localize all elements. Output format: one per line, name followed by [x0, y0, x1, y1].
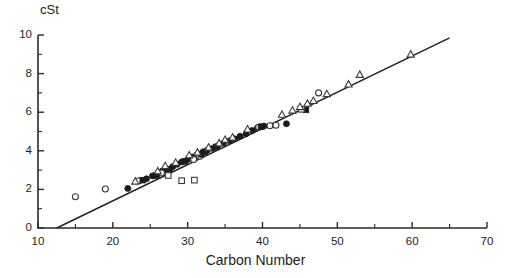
y-tick-label: 8	[6, 67, 32, 79]
data-point-open-square	[179, 178, 185, 184]
data-point-open-circle	[267, 123, 273, 129]
x-tick-label: 30	[168, 235, 208, 247]
data-point-filled-circle	[283, 121, 289, 127]
data-point-filled-circle	[125, 185, 131, 191]
data-point-open-triangle	[289, 107, 296, 113]
series-open-triangle	[132, 51, 415, 184]
data-point-filled-circle	[237, 133, 243, 139]
chart-figure: cSt Carbon Number 024681010203040506070	[0, 0, 511, 278]
x-axis-title: Carbon Number	[0, 252, 511, 268]
y-tick-label: 6	[6, 105, 32, 117]
data-point-filled-square	[140, 177, 146, 183]
data-point-open-triangle	[323, 90, 330, 96]
series-filled-circle	[125, 121, 290, 192]
y-tick-label: 0	[6, 221, 32, 233]
x-tick-label: 70	[467, 235, 507, 247]
data-point-open-triangle	[407, 51, 414, 57]
data-point-open-square	[165, 173, 171, 179]
data-point-filled-square	[258, 124, 264, 130]
data-point-open-triangle	[345, 81, 352, 87]
x-tick-label: 60	[392, 235, 432, 247]
x-tick-label: 10	[18, 235, 58, 247]
x-tick-label: 40	[243, 235, 283, 247]
y-tick-label: 4	[6, 144, 32, 156]
y-tick-label: 10	[6, 28, 32, 40]
data-point-open-square	[192, 177, 198, 183]
data-point-open-triangle	[356, 71, 363, 77]
data-point-filled-square	[182, 159, 188, 165]
y-tick-label: 2	[6, 182, 32, 194]
x-tick-label: 20	[93, 235, 133, 247]
data-point-open-circle	[72, 194, 78, 200]
data-point-open-triangle	[310, 97, 317, 103]
axis-spines	[38, 35, 487, 228]
x-tick-label: 50	[317, 235, 357, 247]
data-point-open-circle	[102, 186, 108, 192]
data-point-open-circle	[273, 122, 279, 128]
data-point-open-triangle	[278, 111, 285, 117]
data-point-open-triangle	[162, 162, 169, 168]
data-point-open-circle	[316, 90, 322, 96]
